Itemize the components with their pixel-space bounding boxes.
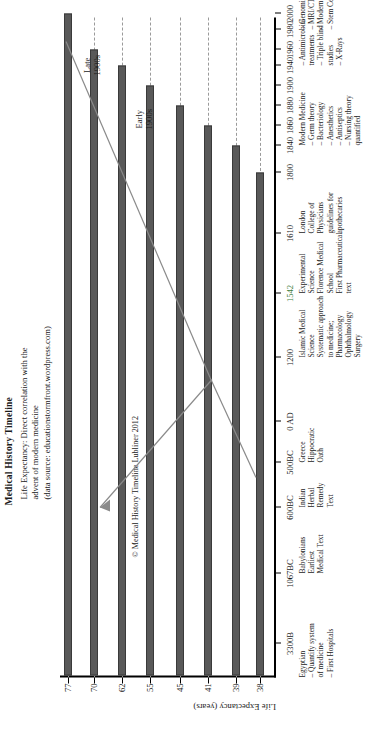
event-line: Earliest — [307, 534, 316, 573]
timeline-event-annotations: Egyptian– Quantify system of medicine– F… — [298, 17, 367, 677]
subtitle-line-1: Life Expectancy: Direct correlation with… — [19, 326, 30, 499]
event-column-600BC: IndianHerbalRemedyText — [298, 482, 335, 507]
x-tick-label-1880: 1880 — [285, 96, 295, 113]
event-line: – Stem Cells — [326, 0, 335, 29]
y-tick-77 — [68, 677, 69, 683]
event-line: – Bacteriology — [316, 92, 325, 145]
y-tick-label-38: 38 — [255, 683, 265, 703]
event-line: Oath — [316, 427, 325, 462]
event-column-1840: Modern Medicine– Germ theory– Bacteriolo… — [298, 92, 362, 145]
event-line: to medicine; — [326, 296, 335, 357]
event-line: Text — [326, 482, 335, 507]
event-line: – X-Rays — [335, 18, 344, 65]
x-tick-1860 — [275, 124, 281, 125]
event-line: of medicine — [316, 623, 325, 677]
y-tick-label-77: 77 — [63, 683, 73, 703]
event-column-500BC: GreeceHippocraticOath — [298, 427, 326, 462]
y-tick-label-70: 70 — [89, 683, 99, 703]
x-tick-label-3300B: 3300B — [285, 632, 295, 655]
event-line: Islamic Medical — [298, 296, 307, 357]
x-tick-1200 — [275, 356, 281, 357]
event-line: – First Hospitals — [326, 623, 335, 677]
y-tick-label-45: 45 — [175, 683, 185, 703]
event-line: Systematic approach — [316, 296, 325, 357]
trend-arrow-group — [60, 17, 276, 677]
x-tick-1800 — [275, 171, 281, 172]
event-line: Greece — [298, 427, 307, 462]
event-line: School — [326, 232, 335, 293]
event-line: Pharmacology — [335, 296, 344, 357]
y-tick-label-62: 62 — [117, 683, 127, 703]
x-tick-label-1900: 1900 — [285, 76, 295, 93]
event-line: Indian — [298, 482, 307, 507]
event-line: text — [344, 232, 353, 293]
event-line: – Genomics — [298, 0, 307, 29]
x-tick-1900 — [275, 84, 281, 85]
x-tick-label-1542: 1542 — [285, 284, 295, 301]
x-tick-1940 — [275, 64, 281, 65]
event-line: Science — [307, 296, 316, 357]
x-tick-label-1940: 1940 — [285, 56, 295, 73]
x-tick-2000 — [275, 12, 281, 13]
event-column-1610: LondonCollege ofPhysiciansguidelines for… — [298, 192, 344, 233]
event-line: – Quantify system — [307, 623, 316, 677]
event-line: Surgery — [353, 296, 362, 357]
x-tick-label-1200: 1200 — [285, 348, 295, 365]
event-line: Experimental — [298, 232, 307, 293]
subtitle-line-2: advent of modern medicine — [30, 326, 41, 499]
page-title: Medical History Timeline — [4, 397, 14, 505]
x-tick-0 AD — [275, 420, 281, 421]
x-tick-label-600BC: 600BC — [285, 495, 295, 519]
subtitle-line-3: (data source: educationstormfront.wordpr… — [42, 326, 53, 499]
event-line: Science — [307, 232, 316, 293]
event-line: – Germ theory — [307, 92, 316, 145]
y-tick-41 — [208, 677, 209, 683]
event-column-1542: ExperimentalScienceFlorence MedicalSchoo… — [298, 232, 353, 293]
event-line: – Nursing theory — [344, 92, 353, 145]
y-tick-62 — [122, 677, 123, 683]
event-line: – Modern Surgery — [316, 0, 325, 29]
event-line: apothecaries — [335, 192, 344, 233]
x-tick-label-1980: 1980 — [285, 20, 295, 37]
annotation-late-1900s: Late1900s — [82, 54, 102, 75]
chart-plot-area: 3300B1067BC600BC500BC0 AD120015421610180… — [60, 17, 276, 677]
event-line: Babylonians — [298, 534, 307, 573]
annotation-early-1900s: Early1900s — [134, 108, 154, 129]
event-line: Egyptian — [298, 623, 307, 677]
x-tick-1980 — [275, 28, 281, 29]
x-tick-label-2000: 2000 — [285, 4, 295, 21]
x-tick-label-1860: 1860 — [285, 116, 295, 133]
x-tick-label-1067BC: 1067BC — [285, 559, 295, 588]
x-tick-1067BC — [275, 572, 281, 573]
event-line: quantified — [353, 92, 362, 145]
event-line: First Pharmaceutical — [335, 232, 344, 293]
event-line: College of — [307, 192, 316, 233]
y-tick-45 — [180, 677, 181, 683]
y-tick-label-39: 39 — [231, 683, 241, 703]
y-tick-39 — [236, 677, 237, 683]
event-column-1980: – Genomics– MRI/CT scans– Modern Surgery… — [298, 0, 335, 29]
event-line: – Anesthetics — [326, 92, 335, 145]
event-line: Hippocratic — [307, 427, 316, 462]
event-column-1067BC: BabyloniansEarliestMedical Text — [298, 534, 326, 573]
x-tick-500BC — [275, 461, 281, 462]
y-tick-label-41: 41 — [203, 683, 213, 703]
x-tick-label-500BC: 500BC — [285, 450, 295, 474]
x-tick-1840 — [275, 144, 281, 145]
x-tick-1610 — [275, 232, 281, 233]
x-tick-label-1610: 1610 — [285, 224, 295, 241]
event-line: Ophthalmology — [344, 296, 353, 357]
y-tick-label-55: 55 — [145, 683, 155, 703]
event-line: Remedy — [316, 482, 325, 507]
event-line: – MRI/CT scans — [307, 0, 316, 29]
event-line: Medical Text — [316, 534, 325, 573]
figure-subtitle: Life Expectancy: Direct correlation with… — [19, 326, 53, 499]
x-tick-label-1840: 1840 — [285, 136, 295, 153]
x-tick-label-0 AD: 0 AD — [285, 412, 295, 430]
x-tick-1880 — [275, 104, 281, 105]
y-axis-title: Life Expectancy (years) — [193, 701, 276, 711]
y-tick-70 — [94, 677, 95, 683]
x-tick-label-1960: 1960 — [285, 40, 295, 57]
